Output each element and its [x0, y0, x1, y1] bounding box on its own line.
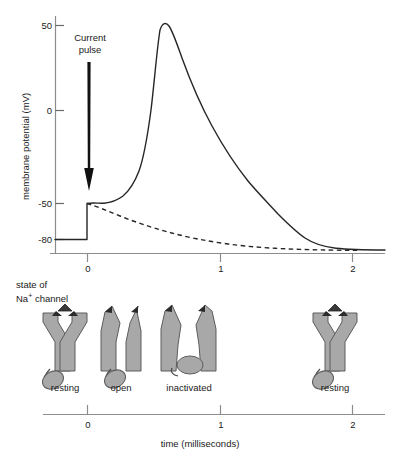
state-label-na: Na — [16, 293, 28, 304]
figure-root: membrane potential (mV) 50 0 -50 -80 0 1… — [0, 0, 399, 461]
activation-gate-icon — [58, 304, 72, 311]
x-tick-label-0: 0 — [78, 263, 98, 274]
channel-caption-open: open — [99, 382, 143, 393]
channel-diagram-inactivated — [161, 305, 216, 376]
gate-tip-right-icon — [131, 306, 138, 313]
gate-tip-right-icon — [198, 305, 205, 312]
y-tick-label-0: 0 — [30, 105, 52, 116]
current-pulse-label-line2: pulse — [62, 44, 118, 55]
bottom-tick-label-0: 0 — [78, 419, 98, 430]
y-tick-label-minus-50: -50 — [26, 198, 52, 209]
current-pulse-label-line1: Current — [62, 32, 118, 43]
bottom-axis — [43, 405, 385, 415]
channel-diagram-open — [101, 306, 141, 392]
activation-gate-icon — [328, 304, 342, 311]
x-tick-label-2: 2 — [343, 263, 363, 274]
y-tick-label-minus-80: -80 — [26, 234, 52, 245]
gate-tip-left-icon — [165, 305, 172, 312]
gate-tip-left-icon — [105, 306, 112, 313]
down-arrow-icon — [84, 62, 94, 191]
channel-subunit-right — [126, 306, 141, 371]
inactivation-ball-icon — [177, 356, 203, 374]
state-label-line1: state of — [16, 279, 47, 290]
channel-subunit-left — [101, 306, 120, 371]
channel-diagram-resting-2 — [309, 304, 357, 393]
current-pulse-arrow — [84, 62, 94, 191]
x-tick-label-1: 1 — [211, 263, 231, 274]
x-axis-title: time (milliseconds) — [110, 438, 290, 449]
state-label-line2: Na+ channel — [16, 290, 68, 304]
channel-subunit-right — [330, 313, 357, 371]
channel-caption-resting-1: resting — [38, 382, 92, 393]
channel-diagram-resting-1 — [39, 304, 87, 393]
y-tick-label-50: 50 — [30, 20, 52, 31]
bottom-tick-label-2: 2 — [343, 419, 363, 430]
channel-subunit-right — [60, 313, 87, 371]
channel-caption-inactivated: inactivated — [156, 382, 222, 393]
bottom-tick-label-1: 1 — [211, 419, 231, 430]
trace-group — [55, 24, 385, 251]
state-label-channel: channel — [32, 293, 68, 304]
action-potential-curve — [55, 24, 385, 250]
channel-caption-resting-2: resting — [308, 382, 362, 393]
